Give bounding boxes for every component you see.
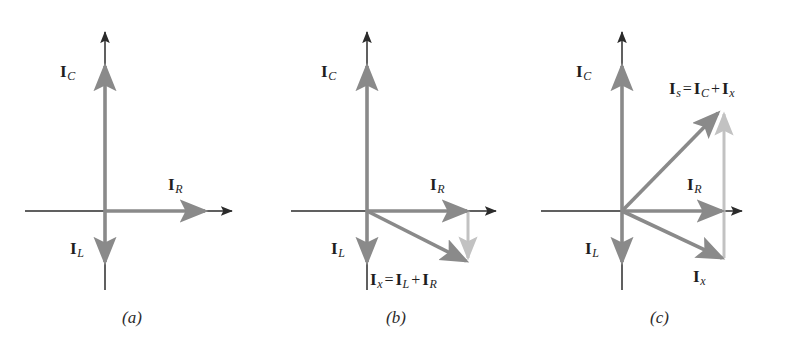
equation-is: Is=IC+Ix: [669, 80, 734, 99]
vector-ix: [367, 211, 466, 261]
panel-caption-c: (c): [528, 308, 791, 328]
label-il: IL: [70, 240, 84, 259]
panel-caption-b: (b): [264, 308, 528, 328]
label-ic: IC: [60, 63, 75, 82]
vector-ix: [622, 211, 722, 258]
panel-b: IC IR IL Ix=IL+IR (b): [264, 0, 528, 356]
label-ir: IR: [687, 176, 701, 195]
phasor-figure: IC IR IL (a): [0, 0, 791, 356]
label-ir: IR: [168, 176, 182, 195]
label-ix: Ix: [693, 268, 705, 287]
label-ic: IC: [576, 63, 591, 82]
label-il: IL: [585, 240, 599, 259]
panel-a: IC IR IL (a): [0, 0, 264, 356]
vector-is: [622, 113, 718, 211]
panel-c: IC IR IL Ix Is=IC+Ix (c): [528, 0, 791, 356]
label-il: IL: [331, 240, 345, 259]
equation-ix: Ix=IL+IR: [370, 271, 437, 290]
panel-caption-a: (a): [0, 308, 264, 328]
label-ir: IR: [430, 176, 444, 195]
label-ic: IC: [321, 63, 336, 82]
